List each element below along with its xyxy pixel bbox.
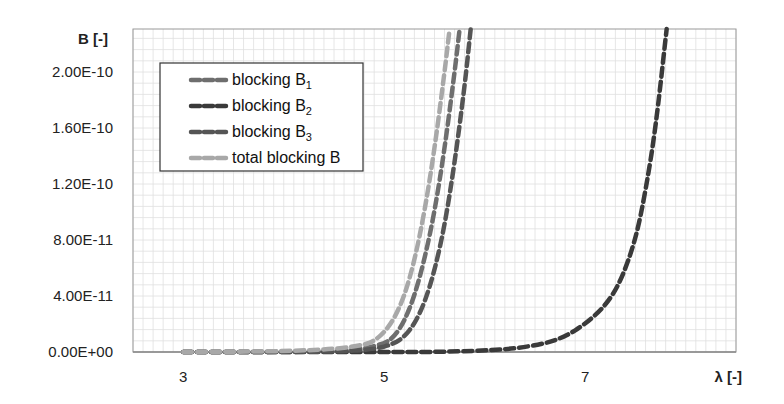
x-tick-label: 3	[179, 368, 187, 385]
x-tick-label: 7	[581, 368, 589, 385]
y-tick-label: 1.60E-10	[52, 119, 113, 136]
x-tick-labels: 357	[179, 368, 589, 385]
y-tick-labels: 0.00E+004.00E-118.00E-111.20E-101.60E-10…	[48, 63, 113, 360]
legend-label-4: total blocking B	[232, 149, 341, 166]
x-axis-label: λ [-]	[715, 368, 743, 385]
legend: blocking B1blocking B2blocking B3total b…	[160, 63, 363, 171]
y-tick-label: 2.00E-10	[52, 63, 113, 80]
y-tick-label: 8.00E-11	[53, 231, 113, 248]
x-tick-label: 5	[380, 368, 388, 385]
y-tick-label: 1.20E-10	[52, 175, 113, 192]
y-tick-label: 4.00E-11	[53, 287, 113, 304]
y-tick-label: 0.00E+00	[48, 343, 113, 360]
chart: 0.00E+004.00E-118.00E-111.20E-101.60E-10…	[0, 0, 784, 404]
y-axis-label: B [-]	[78, 30, 108, 47]
